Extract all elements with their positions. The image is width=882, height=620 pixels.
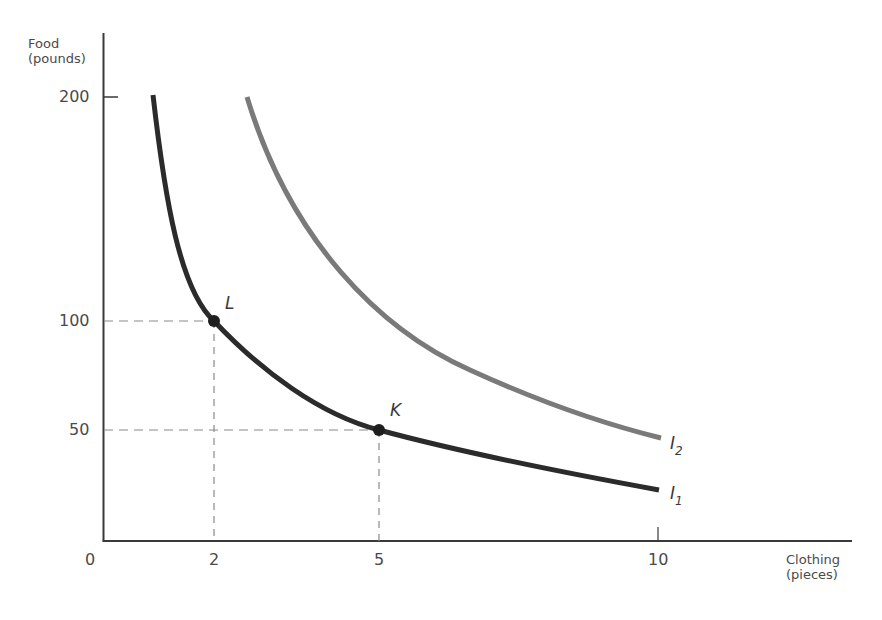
curve-label-i1-sub: 1 [675, 494, 683, 508]
y-tick-label-100: 100 [59, 311, 90, 330]
curve-label-i2-sub: 2 [675, 444, 683, 458]
y-axis-title-line1: Food [28, 36, 86, 51]
point-k-label: K [390, 400, 401, 420]
point-l-label: L [225, 293, 234, 313]
y-tick-label-50: 50 [69, 420, 89, 439]
indifference-curve-i2 [247, 97, 661, 438]
guide-lines [104, 321, 379, 541]
chart-canvas [0, 0, 882, 620]
x-axis-title: Clothing (pieces) [786, 552, 840, 582]
x-tick-label-5: 5 [374, 550, 384, 569]
x-tick-label-10: 10 [648, 550, 668, 569]
y-axis-title: Food (pounds) [28, 36, 86, 66]
y-tick-label-200: 200 [59, 87, 90, 106]
x-tick-label-2: 2 [209, 550, 219, 569]
x-tick-label-0: 0 [85, 550, 95, 569]
point-l-marker [208, 315, 220, 327]
curve-label-i1: I1 [670, 483, 683, 508]
x-axis-title-line1: Clothing [786, 552, 840, 567]
curve-label-i2: I2 [670, 433, 683, 458]
point-k-marker [373, 424, 385, 436]
y-axis-title-line2: (pounds) [28, 51, 86, 66]
x-axis-title-line2: (pieces) [786, 567, 840, 582]
